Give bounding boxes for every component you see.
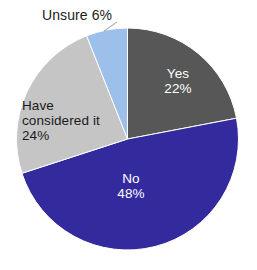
pie-label-yes: Yes 22% xyxy=(148,66,208,96)
pie-label-no: No 48% xyxy=(101,171,161,201)
pie-label-unsure: Unsure 6% xyxy=(42,8,152,24)
pie-chart: Yes 22% No 48% Have considered it 24% Un… xyxy=(0,0,257,270)
pie-label-considered: Have considered it 24% xyxy=(22,98,117,143)
